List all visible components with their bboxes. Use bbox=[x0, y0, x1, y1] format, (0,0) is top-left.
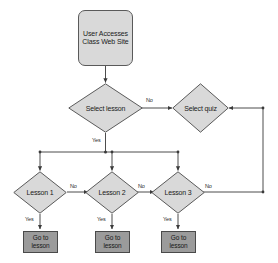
node-lesson-2[interactable]: Lesson 2 bbox=[85, 171, 139, 214]
node-select-lesson-label: Select lesson bbox=[86, 105, 126, 112]
node-lesson-3[interactable]: Lesson 3 bbox=[151, 171, 205, 214]
edge-label-lesson-2-yes: Yes bbox=[97, 216, 106, 222]
edge-label-select-lesson-yes: Yes bbox=[92, 137, 101, 143]
node-goto-lesson-1-label: Go to lesson bbox=[24, 234, 57, 250]
node-select-quiz[interactable]: Select quiz bbox=[172, 83, 229, 133]
node-lesson-2-label: Lesson 2 bbox=[98, 189, 125, 196]
node-goto-lesson-1[interactable]: Go to lesson bbox=[23, 231, 58, 253]
node-goto-lesson-3[interactable]: Go to lesson bbox=[161, 231, 196, 253]
flowchart-canvas: User Accesses Class Web Site Select less… bbox=[0, 0, 278, 263]
node-select-lesson[interactable]: Select lesson bbox=[68, 83, 143, 133]
node-lesson-3-label: Lesson 3 bbox=[164, 189, 191, 196]
node-goto-lesson-2-label: Go to lesson bbox=[96, 234, 129, 250]
edge-label-lesson-2-no: No bbox=[138, 183, 145, 189]
edge-label-select-lesson-no: No bbox=[146, 97, 153, 103]
node-lesson-1-label: Lesson 1 bbox=[26, 189, 53, 196]
node-lesson-1[interactable]: Lesson 1 bbox=[13, 171, 67, 214]
edge-label-lesson-3-no: No bbox=[205, 183, 212, 189]
edge-label-lesson-1-no: No bbox=[70, 183, 77, 189]
node-goto-lesson-2[interactable]: Go to lesson bbox=[95, 231, 130, 253]
edge-label-lesson-1-yes: Yes bbox=[25, 216, 34, 222]
node-goto-lesson-3-label: Go to lesson bbox=[162, 234, 195, 250]
node-start-label: User Accesses Class Web Site bbox=[79, 30, 132, 47]
node-start[interactable]: User Accesses Class Web Site bbox=[78, 10, 133, 66]
node-select-quiz-label: Select quiz bbox=[184, 105, 217, 112]
edge-label-lesson-3-yes: Yes bbox=[163, 216, 172, 222]
